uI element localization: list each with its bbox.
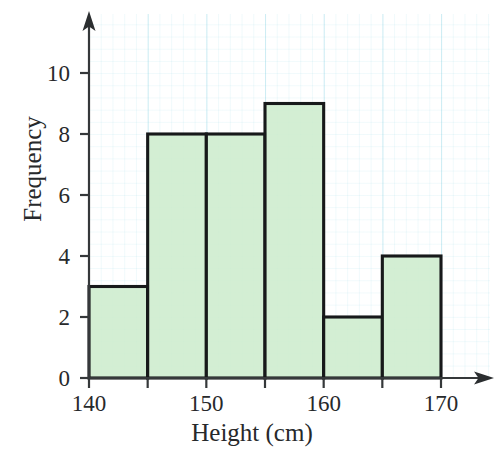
plot-area (0, 0, 504, 456)
y-tick-label-2: 2 (46, 306, 70, 329)
y-tick-label-0: 0 (46, 367, 70, 390)
x-axis-title: Height (cm) (0, 419, 504, 447)
x-tick-label-160: 160 (306, 392, 341, 415)
bar-140-145 (89, 287, 148, 379)
x-tick-label-170: 170 (424, 392, 459, 415)
bar-155-160 (265, 104, 324, 379)
y-axis-title: Frequency (19, 69, 47, 269)
bar-165-170 (382, 256, 441, 378)
x-tick-label-140: 140 (72, 392, 107, 415)
bar-160-165 (324, 317, 383, 378)
y-tick-label-4: 4 (46, 245, 70, 268)
y-tick-label-6: 6 (46, 184, 70, 207)
bar-150-155 (206, 134, 265, 378)
histogram-figure: 0 2 4 6 8 10 140 150 160 170 Height (cm)… (0, 0, 504, 456)
x-tick-label-150: 150 (189, 392, 224, 415)
bar-145-150 (148, 134, 207, 378)
bars-group (89, 104, 441, 379)
y-tick-label-8: 8 (46, 123, 70, 146)
